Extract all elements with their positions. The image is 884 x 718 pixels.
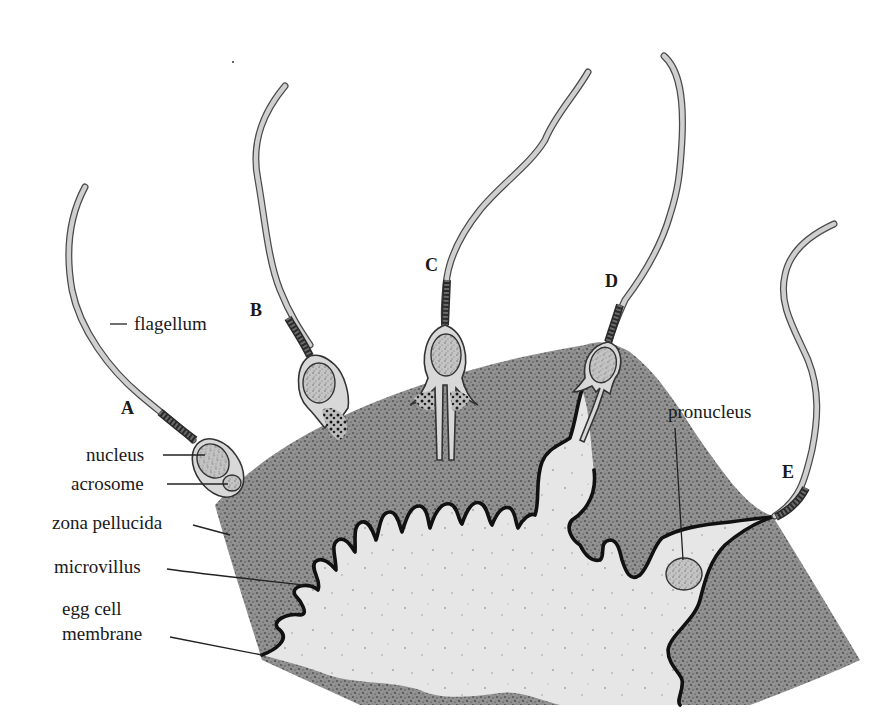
sperm-b: [256, 86, 349, 440]
pronucleus: [666, 558, 702, 590]
label-membrane: membrane: [62, 623, 142, 644]
label-egg-cell: egg cell: [62, 598, 122, 619]
speck: [232, 61, 234, 63]
label-zona-pellucida: zona pellucida: [52, 512, 163, 533]
label-pronucleus: pronucleus: [668, 401, 751, 422]
sperm-egg-fertilization-diagram: flagellum nucleus acrosome zona pellucid…: [0, 0, 884, 718]
label-microvillus: microvillus: [54, 556, 141, 577]
stage-label-b: B: [250, 300, 262, 320]
leader-egg-cell-membrane: [170, 637, 262, 655]
stage-label-c: C: [425, 255, 438, 275]
stage-label-d: D: [605, 271, 618, 291]
stage-label-a: A: [121, 398, 134, 418]
stage-label-e: E: [782, 462, 794, 482]
label-flagellum: flagellum: [134, 313, 207, 334]
label-acrosome: acrosome: [71, 473, 144, 494]
label-nucleus: nucleus: [86, 444, 144, 465]
